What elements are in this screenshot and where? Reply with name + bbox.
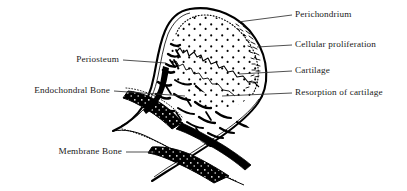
label-periosteum: Periosteum (0, 54, 119, 65)
leader-periosteum (123, 60, 166, 63)
label-perichondrium: Perichondrium (295, 9, 352, 20)
label-membrane-bone: Membrane Bone (0, 146, 122, 157)
label-cellular-proliferation: Cellular proliferation (295, 39, 376, 50)
label-cartilage: Cartilage (295, 65, 330, 76)
label-endochondral-bone: Endochondral Bone (0, 85, 110, 96)
bone-development-diagram: Perichondrium Cellular proliferation Car… (0, 0, 407, 191)
label-resorption-of-cartilage: Resorption of cartilage (295, 87, 383, 98)
leader-perichondrium (238, 15, 292, 22)
leader-cellular-proliferation (257, 45, 292, 47)
membrane-bone-lower-collar (148, 147, 229, 183)
